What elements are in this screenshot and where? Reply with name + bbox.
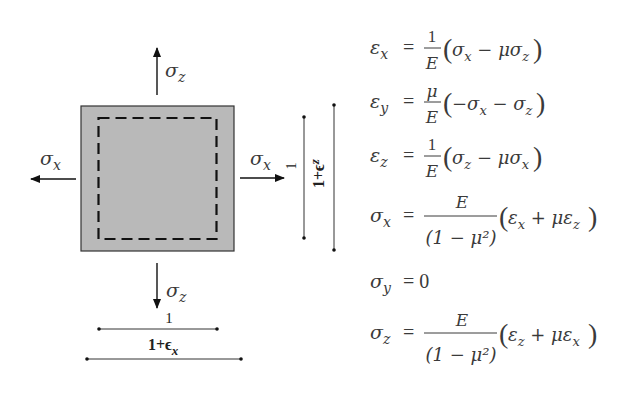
- svg-text:1: 1: [428, 135, 437, 154]
- diagram-canvas: σz σz σx σx 1 1+ϵx 1 1+ϵz εx = 1 E ( σx …: [0, 0, 623, 406]
- svg-text:): ): [533, 141, 542, 172]
- svg-text:σx: σx: [370, 204, 391, 230]
- dim-dot: [332, 103, 336, 107]
- label-sigma-z-bottom: σz: [166, 279, 187, 305]
- svg-text:εx + μεz: εx + μεz: [508, 207, 580, 232]
- svg-text:= 0: = 0: [403, 270, 429, 292]
- dim-dot: [215, 327, 219, 331]
- svg-text:E: E: [455, 310, 469, 330]
- svg-text:E: E: [455, 192, 469, 212]
- svg-text:=: =: [403, 36, 414, 58]
- dim-dot: [239, 357, 243, 361]
- dim-bottom-original-label: 1: [165, 310, 173, 326]
- svg-text:=: =: [403, 144, 414, 166]
- svg-text:): ): [533, 33, 542, 64]
- dim-dot: [302, 115, 306, 119]
- svg-text:): ): [588, 201, 597, 232]
- svg-text:(1 − μ²): (1 − μ²): [426, 344, 497, 365]
- dim-bottom-deformed-label: 1+ϵx: [148, 336, 179, 358]
- label-sigma-x-right: σx: [250, 147, 271, 173]
- svg-text:εz + μεx: εz + μεx: [508, 324, 580, 349]
- svg-text:σx − μσz: σx − μσz: [452, 39, 529, 64]
- svg-text:(: (: [443, 141, 452, 172]
- svg-text:E: E: [425, 53, 439, 73]
- svg-text:σz: σz: [370, 321, 391, 347]
- svg-text:μ: μ: [426, 81, 437, 101]
- equation-epsilon-y: εy = μ E ( −σx − σz ): [370, 81, 545, 127]
- svg-text:σz − μσx: σz − μσx: [452, 147, 530, 172]
- svg-text:(: (: [499, 318, 508, 349]
- svg-text:): ): [536, 87, 545, 118]
- svg-text:(: (: [443, 33, 452, 64]
- dim-dot: [332, 248, 336, 252]
- svg-text:σy: σy: [370, 270, 392, 296]
- svg-text:(1 − μ²): (1 − μ²): [426, 227, 497, 248]
- svg-text:εy: εy: [370, 90, 389, 116]
- dim-right-original-label: 1: [284, 163, 299, 170]
- svg-text:E: E: [425, 107, 439, 127]
- svg-text:(: (: [499, 201, 508, 232]
- equation-epsilon-x: εx = 1 E ( σx − μσz ): [370, 27, 542, 73]
- dim-dot: [302, 236, 306, 240]
- svg-text:(: (: [443, 87, 452, 118]
- equation-sigma-z: σz = E (1 − μ²) ( εz + μεx ): [370, 310, 597, 365]
- dim-right-deformed-label: 1+ϵz: [307, 158, 327, 188]
- svg-text:−σx − σz: −σx − σz: [452, 93, 533, 118]
- equation-sigma-y: σy = 0: [370, 270, 429, 296]
- svg-text:): ): [588, 318, 597, 349]
- svg-text:1: 1: [428, 27, 437, 46]
- svg-text:=: =: [403, 204, 414, 226]
- svg-text:=: =: [403, 90, 414, 112]
- dim-dot: [85, 357, 89, 361]
- equation-sigma-x: σx = E (1 − μ²) ( εx + μεz ): [370, 192, 597, 248]
- label-sigma-x-left: σx: [40, 147, 61, 173]
- svg-text:E: E: [425, 161, 439, 181]
- stress-element-square: [81, 106, 234, 251]
- svg-text:εz: εz: [370, 144, 388, 170]
- dim-dot: [97, 327, 101, 331]
- svg-text:εx: εx: [370, 36, 388, 62]
- equation-epsilon-z: εz = 1 E ( σz − μσx ): [370, 135, 542, 181]
- label-sigma-z-top: σz: [165, 59, 186, 85]
- svg-text:=: =: [403, 321, 414, 343]
